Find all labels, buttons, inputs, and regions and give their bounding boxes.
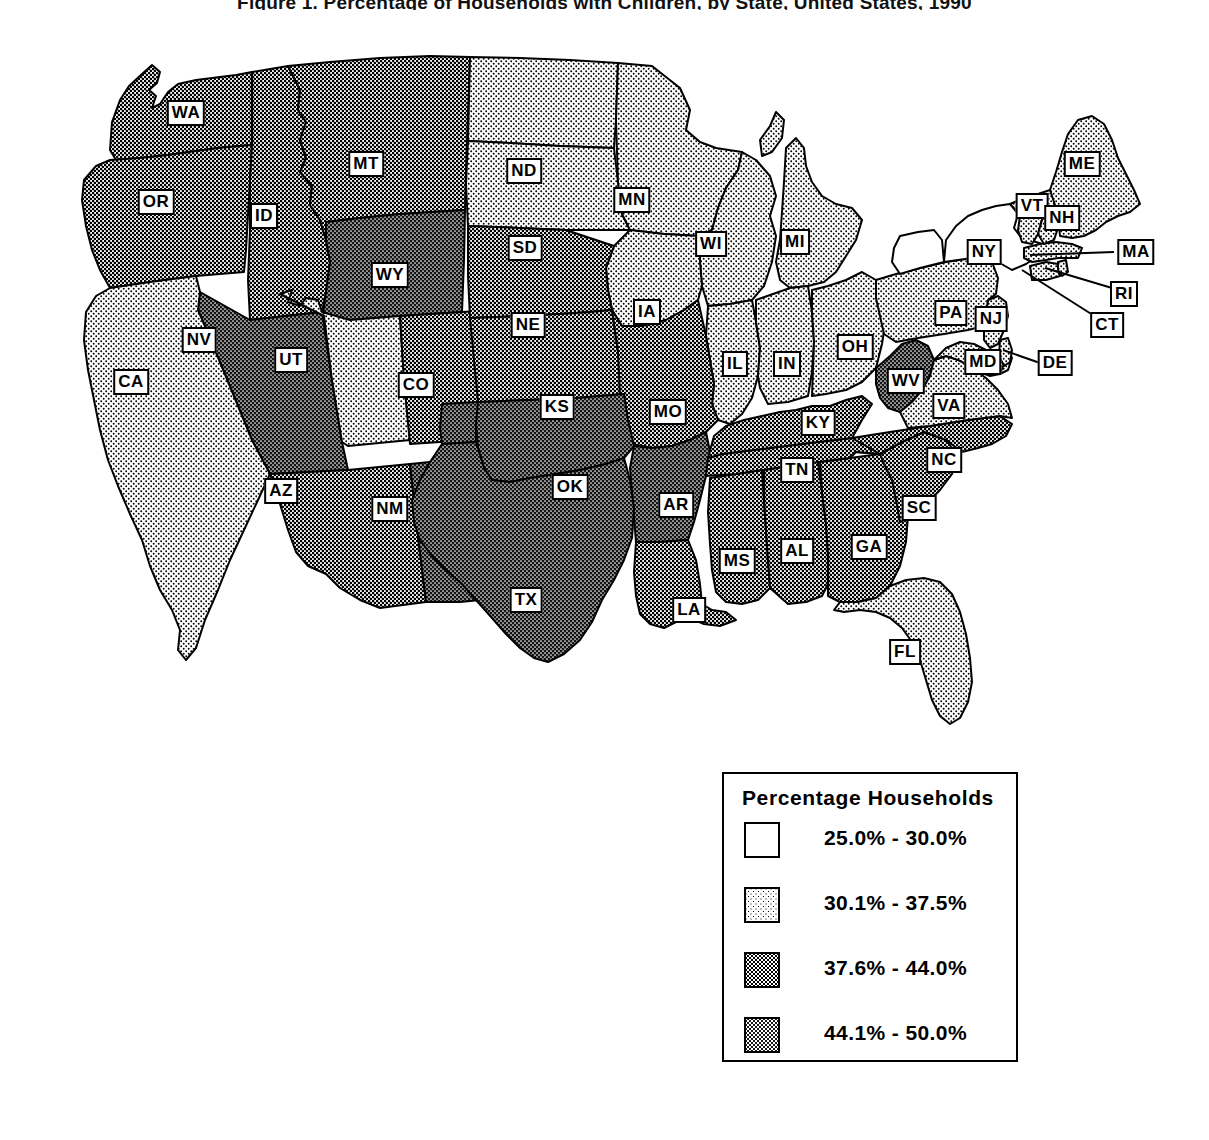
state-label-NC[interactable]: NC xyxy=(926,447,962,473)
legend-label-c1: 30.1% - 37.5% xyxy=(824,891,967,915)
state-label-OR[interactable]: OR xyxy=(138,189,175,215)
state-label-MA[interactable]: MA xyxy=(1117,239,1154,265)
legend-swatch-mid-stipple xyxy=(744,952,780,988)
state-label-WI[interactable]: WI xyxy=(695,231,727,257)
legend-title: Percentage Households xyxy=(742,786,994,810)
legend-label-c0: 25.0% - 30.0% xyxy=(824,826,967,850)
state-label-MO[interactable]: MO xyxy=(649,399,687,425)
state-label-KS[interactable]: KS xyxy=(540,394,575,420)
state-label-NM[interactable]: NM xyxy=(371,496,408,522)
state-label-NE[interactable]: NE xyxy=(511,312,546,338)
map-legend: Percentage Households 25.0% - 30.0%30.1%… xyxy=(722,772,1018,1062)
state-label-MN[interactable]: MN xyxy=(613,187,650,213)
state-OR[interactable] xyxy=(82,145,252,288)
state-label-SC[interactable]: SC xyxy=(902,495,937,521)
state-label-WY[interactable]: WY xyxy=(371,262,409,288)
state-MS[interactable] xyxy=(708,470,770,604)
map-svg xyxy=(0,0,1209,1140)
state-MA[interactable] xyxy=(1024,242,1082,262)
state-label-KY[interactable]: KY xyxy=(801,410,836,436)
state-label-SD[interactable]: SD xyxy=(508,235,543,261)
state-label-TX[interactable]: TX xyxy=(510,587,543,613)
legend-label-c3: 44.1% - 50.0% xyxy=(824,1021,967,1045)
state-label-FL[interactable]: FL xyxy=(889,639,921,665)
state-label-MS[interactable]: MS xyxy=(719,548,756,574)
state-label-IL[interactable]: IL xyxy=(722,351,748,377)
state-label-AR[interactable]: AR xyxy=(658,492,694,518)
state-label-MI[interactable]: MI xyxy=(780,229,810,255)
state-label-ME[interactable]: ME xyxy=(1064,151,1101,177)
state-IN[interactable] xyxy=(756,286,814,404)
state-label-OH[interactable]: OH xyxy=(837,334,874,360)
state-label-GA[interactable]: GA xyxy=(851,534,888,560)
legend-swatch-light-stipple xyxy=(744,887,780,923)
state-label-AL[interactable]: AL xyxy=(780,538,814,564)
state-AL[interactable] xyxy=(764,462,830,604)
state-label-OK[interactable]: OK xyxy=(552,474,589,500)
state-KS[interactable] xyxy=(470,310,624,402)
state-label-NJ[interactable]: NJ xyxy=(975,306,1008,332)
state-label-TN[interactable]: TN xyxy=(780,457,814,483)
state-label-CO[interactable]: CO xyxy=(398,372,435,398)
state-label-CT[interactable]: CT xyxy=(1090,312,1124,338)
state-label-CA[interactable]: CA xyxy=(113,369,149,395)
state-label-IA[interactable]: IA xyxy=(633,299,661,325)
legend-swatch-dark-stipple xyxy=(744,1017,780,1053)
state-label-ND[interactable]: ND xyxy=(506,158,542,184)
state-label-DE[interactable]: DE xyxy=(1038,350,1073,376)
state-label-WV[interactable]: WV xyxy=(887,368,925,394)
legend-row-c1: 30.1% - 37.5% xyxy=(744,887,1012,927)
state-label-WA[interactable]: WA xyxy=(167,100,205,126)
state-label-VA[interactable]: VA xyxy=(932,393,965,419)
state-label-MT[interactable]: MT xyxy=(348,151,384,177)
state-label-PA[interactable]: PA xyxy=(934,300,967,326)
state-label-AZ[interactable]: AZ xyxy=(264,478,298,504)
state-label-UT[interactable]: UT xyxy=(274,347,308,373)
legend-swatch-white xyxy=(744,822,780,858)
state-label-LA[interactable]: LA xyxy=(672,597,706,623)
state-label-RI[interactable]: RI xyxy=(1110,281,1138,307)
state-ND[interactable] xyxy=(468,57,618,148)
legend-row-c3: 44.1% - 50.0% xyxy=(744,1017,1012,1057)
legend-row-c0: 25.0% - 30.0% xyxy=(744,822,1012,862)
state-label-NY[interactable]: NY xyxy=(967,239,1002,265)
state-AR[interactable] xyxy=(630,432,710,542)
state-label-ID[interactable]: ID xyxy=(250,203,278,229)
legend-label-c2: 37.6% - 44.0% xyxy=(824,956,967,980)
state-label-NH[interactable]: NH xyxy=(1044,205,1080,231)
state-label-IN[interactable]: IN xyxy=(773,351,801,377)
legend-row-c2: 37.6% - 44.0% xyxy=(744,952,1012,992)
state-label-MD[interactable]: MD xyxy=(964,349,1001,375)
state-label-NV[interactable]: NV xyxy=(182,327,217,353)
us-choropleth-map: WAORIDMTWYNDSDMNWIMIIAILINOHNEKSMONVUTCA… xyxy=(0,0,1209,1140)
state-SD[interactable] xyxy=(466,141,630,230)
